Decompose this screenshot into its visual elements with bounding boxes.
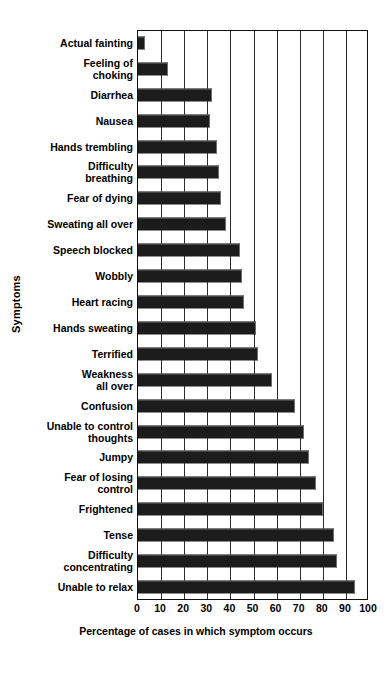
- x-tick-label-0: 0: [134, 602, 140, 614]
- bar-row: Terrified: [0, 341, 392, 367]
- category-label: Heart racing: [0, 296, 133, 308]
- bar: [138, 581, 355, 594]
- bar: [138, 62, 168, 75]
- category-label: Tense: [0, 529, 133, 541]
- bar-row: Hands trembling: [0, 134, 392, 160]
- category-label: Unable to control thoughts: [0, 420, 133, 444]
- bar-row: Weakness all over: [0, 367, 392, 393]
- x-tick-label-100: 100: [359, 602, 377, 614]
- bar-row: Frightened: [0, 496, 392, 522]
- bar: [138, 218, 226, 231]
- bar-row: Jumpy: [0, 445, 392, 471]
- category-label: Difficulty breathing: [0, 160, 133, 184]
- category-label: Nausea: [0, 115, 133, 127]
- category-label: Speech blocked: [0, 244, 133, 256]
- bar: [138, 296, 244, 309]
- category-label: Fear of dying: [0, 192, 133, 204]
- bar: [138, 270, 242, 283]
- bar: [138, 529, 334, 542]
- bar-row: Nausea: [0, 108, 392, 134]
- bar-row: Unable to control thoughts: [0, 419, 392, 445]
- x-axis-title: Percentage of cases in which symptom occ…: [0, 625, 392, 637]
- x-tick-label-10: 10: [154, 602, 166, 614]
- category-label: Hands trembling: [0, 141, 133, 153]
- bar: [138, 140, 217, 153]
- bar-row: Difficulty concentrating: [0, 548, 392, 574]
- bar: [138, 477, 316, 490]
- bar: [138, 347, 258, 360]
- bar: [138, 36, 145, 49]
- x-tick-label-30: 30: [200, 602, 212, 614]
- bar: [138, 555, 337, 568]
- bar-row: Diarrhea: [0, 82, 392, 108]
- x-tick-label-20: 20: [177, 602, 189, 614]
- bar: [138, 321, 256, 334]
- category-label: Fear of losing control: [0, 471, 133, 495]
- bar: [138, 166, 219, 179]
- x-axis-tick-labels: 0102030405060708090100: [137, 602, 368, 618]
- bar: [138, 373, 272, 386]
- bar-row: Fear of dying: [0, 185, 392, 211]
- category-label: Jumpy: [0, 451, 133, 463]
- x-tick-label-80: 80: [316, 602, 328, 614]
- category-label: Frightened: [0, 503, 133, 515]
- category-label: Wobbly: [0, 270, 133, 282]
- x-tick-label-50: 50: [247, 602, 259, 614]
- category-label: Weakness all over: [0, 368, 133, 392]
- bar-row: Unable to relax: [0, 574, 392, 600]
- category-label: Unable to relax: [0, 581, 133, 593]
- bar-row: Confusion: [0, 393, 392, 419]
- bar-row: Sweating all over: [0, 211, 392, 237]
- bar-row: Fear of losing control: [0, 470, 392, 496]
- bar-row: Actual fainting: [0, 30, 392, 56]
- category-label: Difficulty concentrating: [0, 549, 133, 573]
- bar-row: Difficulty breathing: [0, 160, 392, 186]
- x-tick-label-90: 90: [339, 602, 351, 614]
- category-label: Sweating all over: [0, 218, 133, 230]
- bar-row: Hands sweating: [0, 315, 392, 341]
- bar: [138, 503, 323, 516]
- category-label: Terrified: [0, 348, 133, 360]
- category-label: Diarrhea: [0, 89, 133, 101]
- bar: [138, 451, 309, 464]
- x-tick-label-70: 70: [293, 602, 305, 614]
- bar: [138, 425, 304, 438]
- category-label: Hands sweating: [0, 322, 133, 334]
- bar-row: Speech blocked: [0, 237, 392, 263]
- x-tick-label-40: 40: [224, 602, 236, 614]
- bar-row: Heart racing: [0, 289, 392, 315]
- bar: [138, 114, 210, 127]
- bar-chart: Symptoms Actual faintingFeeling of choki…: [0, 0, 392, 675]
- bar-row: Feeling of choking: [0, 56, 392, 82]
- bar: [138, 88, 212, 101]
- bar: [138, 192, 221, 205]
- bar-row: Tense: [0, 522, 392, 548]
- category-label: Actual fainting: [0, 37, 133, 49]
- category-label: Feeling of choking: [0, 57, 133, 81]
- category-label: Confusion: [0, 400, 133, 412]
- bar: [138, 244, 240, 257]
- x-tick-label-60: 60: [270, 602, 282, 614]
- bar-row: Wobbly: [0, 263, 392, 289]
- bar-rows: Actual faintingFeeling of chokingDiarrhe…: [0, 30, 392, 600]
- bar: [138, 399, 295, 412]
